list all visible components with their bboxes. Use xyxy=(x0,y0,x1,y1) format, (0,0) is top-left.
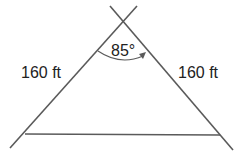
base-line xyxy=(25,134,220,135)
left-side-label: 160 ft xyxy=(21,64,62,81)
right-side-label: 160 ft xyxy=(178,64,219,81)
triangle-diagram: 85° 160 ft 160 ft xyxy=(0,0,237,153)
arrowhead-icon xyxy=(139,52,146,59)
apex-angle-label: 85° xyxy=(111,42,135,59)
